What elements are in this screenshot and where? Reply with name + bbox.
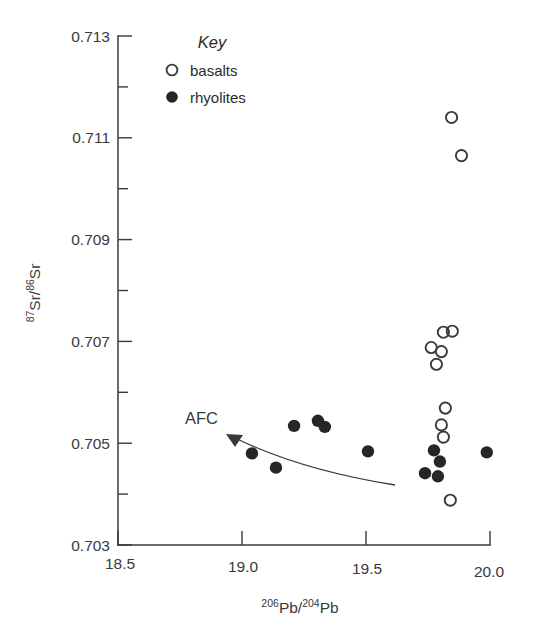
data-point-rhyolites	[432, 470, 444, 482]
x-axis-title-base-pb2: Pb	[320, 599, 339, 616]
axis-frame	[118, 36, 490, 545]
data-point-basalts	[431, 359, 442, 370]
x-axis-title-sup-206: 206	[261, 597, 279, 609]
data-point-rhyolites	[246, 447, 258, 459]
y-tick-label: 0.709	[71, 231, 110, 248]
afc-annotation: AFC	[185, 409, 395, 485]
data-point-rhyolites	[362, 445, 374, 457]
legend-label-rhyolites: rhyolites	[190, 89, 246, 106]
afc-label: AFC	[185, 409, 218, 427]
x-tick-label: 20.0	[474, 563, 505, 580]
data-point-rhyolites	[288, 420, 300, 432]
y-tick-label: 0.713	[71, 28, 110, 45]
y-axis-title: 87Sr/86Sr	[24, 264, 43, 323]
legend-label-basalts: basalts	[190, 62, 238, 79]
data-point-basalts	[445, 495, 456, 506]
legend-marker-open-circle	[167, 65, 178, 76]
y-tick-label: 0.705	[71, 435, 110, 452]
isotope-scatter-figure: 0.713 0.711 0.709 0.707 0.705 0.703 18.5…	[0, 0, 534, 642]
data-point-basalts	[438, 431, 449, 442]
x-axis-title-base-pb: Pb/	[279, 599, 303, 616]
x-tick-label: 19.0	[228, 558, 259, 575]
afc-curve	[233, 437, 395, 485]
y-axis-ticks	[118, 36, 132, 545]
y-axis-title-sup-86: 86	[24, 279, 36, 291]
data-point-rhyolites	[270, 461, 282, 473]
data-point-basalts	[436, 346, 447, 357]
y-axis-title-base-sr: Sr/	[26, 290, 43, 311]
data-point-rhyolites	[419, 467, 431, 479]
data-point-rhyolites	[319, 421, 331, 433]
y-tick-label: 0.711	[72, 129, 110, 146]
data-point-basalts	[446, 112, 457, 123]
data-point-basalts	[456, 150, 467, 161]
data-point-basalts	[440, 402, 451, 413]
x-axis-title: 206Pb/204Pb	[261, 597, 338, 616]
y-axis-title-base-sr2: Sr	[26, 264, 43, 280]
y-tick-label: 0.707	[71, 333, 110, 350]
data-point-rhyolites	[428, 444, 440, 456]
y-axis-title-sup-87: 87	[24, 311, 36, 323]
series-rhyolites	[246, 415, 493, 483]
plot-canvas: 0.713 0.711 0.709 0.707 0.705 0.703 18.5…	[0, 0, 534, 642]
x-axis-tick-labels: 18.5 19.0 19.5 20.0	[105, 555, 505, 580]
legend: Key basalts rhyolites	[166, 33, 246, 106]
data-point-rhyolites	[481, 446, 493, 458]
legend-title: Key	[198, 33, 228, 51]
x-axis-title-sup-204: 204	[302, 597, 320, 609]
data-point-rhyolites	[434, 455, 446, 467]
y-tick-label: 0.703	[71, 537, 110, 554]
data-point-basalts	[436, 419, 447, 430]
x-tick-label: 19.5	[352, 560, 382, 577]
x-axis-ticks	[118, 531, 490, 545]
data-series-layer	[246, 112, 493, 506]
x-tick-label: 18.5	[105, 555, 135, 572]
y-axis-tick-labels: 0.713 0.711 0.709 0.707 0.705 0.703	[71, 28, 110, 554]
legend-marker-filled-circle	[166, 91, 178, 103]
